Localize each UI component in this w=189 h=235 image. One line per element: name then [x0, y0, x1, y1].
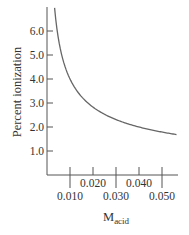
axes: [47, 7, 178, 175]
x-axis-label-subscript: acid: [114, 216, 129, 226]
y-tick-label: 4.0: [30, 73, 45, 85]
x-tick-label: 0.050: [149, 190, 175, 202]
x-tick-label: 0.040: [126, 177, 152, 189]
x-tick-label: 0.010: [57, 190, 83, 202]
x-tick-label: 0.030: [103, 190, 129, 202]
x-axis-label: Macid: [103, 210, 130, 226]
y-tick-label: 6.0: [30, 25, 45, 37]
data-curve: [55, 8, 177, 135]
y-ticks: 1.02.03.04.05.06.0: [30, 25, 53, 157]
y-tick-label: 1.0: [30, 145, 45, 157]
y-tick-label: 5.0: [30, 49, 45, 61]
x-ticks: 0.0100.0200.0300.0400.050: [57, 167, 175, 202]
chart: 1.02.03.04.05.06.0 0.0100.0200.0300.0400…: [0, 0, 189, 235]
y-tick-label: 3.0: [30, 97, 45, 109]
y-axis-label: Percent ionization: [10, 46, 24, 137]
x-tick-label: 0.020: [80, 177, 106, 189]
y-tick-label: 2.0: [30, 121, 45, 133]
x-axis-label-main: M: [103, 210, 114, 224]
